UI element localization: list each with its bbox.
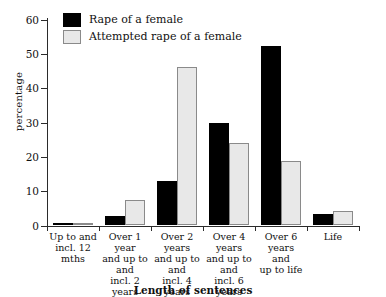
bar-rape — [53, 223, 73, 225]
bar-attempted-rape — [229, 143, 249, 225]
y-tick-label-30: 30 — [15, 118, 39, 128]
x-category-label: Over 4 yearsand up toandincl. 6 years — [203, 231, 255, 297]
bar-rape — [105, 216, 125, 225]
x-category-line: and up to — [151, 253, 203, 264]
x-category-line: and — [99, 264, 151, 275]
bar-group — [203, 20, 255, 225]
x-category-line: Over 1 year — [99, 231, 151, 253]
bar-group — [151, 20, 203, 225]
x-category-line: and — [255, 253, 307, 264]
x-category-line: incl. 4 years — [151, 275, 203, 297]
x-category-label: Over 2 yearsand up toandincl. 4 years — [151, 231, 203, 297]
bar-rape — [157, 181, 177, 225]
bar-group — [255, 20, 307, 225]
bar-group — [47, 20, 99, 225]
x-tick — [359, 226, 360, 231]
plot-area — [47, 20, 359, 225]
bar-attempted-rape — [73, 223, 93, 225]
bar-group — [307, 20, 359, 225]
x-category-line: and — [203, 264, 255, 275]
x-category-line: and — [151, 264, 203, 275]
y-tick-label-20: 20 — [15, 152, 39, 162]
bar-rape — [209, 123, 229, 225]
bar-attempted-rape — [177, 67, 197, 225]
bar-attempted-rape — [333, 211, 353, 225]
x-category-label: Life — [307, 231, 359, 242]
bar-group — [99, 20, 151, 225]
y-tick-label-50: 50 — [15, 49, 39, 59]
x-category-line: Up to and — [47, 231, 99, 242]
bar-attempted-rape — [125, 200, 145, 225]
bar-rape — [313, 214, 333, 225]
y-tick-label-40: 40 — [15, 83, 39, 93]
bar-attempted-rape — [281, 161, 301, 225]
x-category-line: and up to — [203, 253, 255, 264]
x-category-label: Up to andincl. 12 mths — [47, 231, 99, 264]
x-category-line: Life — [307, 231, 359, 242]
y-tick-label-0: 0 — [15, 221, 39, 231]
x-category-line: and up to — [99, 253, 151, 264]
x-category-line: up to life — [255, 264, 307, 275]
x-category-line: incl. 12 mths — [47, 242, 99, 264]
x-category-line: Over 4 years — [203, 231, 255, 253]
x-category-label: Over 1 yearand up toandincl. 2 years — [99, 231, 151, 297]
x-category-line: incl. 2 years — [99, 275, 151, 297]
x-category-label: Over 6 yearsandup to life — [255, 231, 307, 275]
x-category-line: Over 2 years — [151, 231, 203, 253]
x-category-line: Over 6 years — [255, 231, 307, 253]
y-tick-label-10: 10 — [15, 186, 39, 196]
y-tick-label-60: 60 — [15, 15, 39, 25]
y-axis-title: percentage — [13, 62, 24, 142]
x-category-line: incl. 6 years — [203, 275, 255, 297]
bar-rape — [261, 46, 281, 225]
